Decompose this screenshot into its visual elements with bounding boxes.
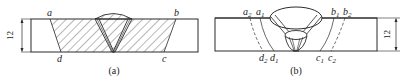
- label-d1: d1: [270, 52, 279, 65]
- label-b: b: [174, 7, 179, 18]
- label-d: d: [57, 53, 63, 64]
- label-a: a: [47, 7, 52, 18]
- label-c: c: [162, 53, 167, 64]
- label-b2: b2: [343, 6, 352, 19]
- label-c2: c2: [328, 52, 336, 65]
- caption-b: (b): [290, 65, 302, 77]
- boundary-a1-d1: [260, 18, 274, 51]
- weld-diagram: 12 a b d c (a): [0, 0, 408, 81]
- caption-a: (a): [108, 65, 119, 77]
- panel-b: 12 a2 a1 b1 b2 d2 d1 c1 c2 (b): [215, 6, 400, 77]
- label-a2: a2: [243, 6, 252, 19]
- dimension-label-a: 12: [5, 31, 15, 40]
- label-a1: a1: [256, 6, 265, 19]
- dimension-label-b: 12: [382, 30, 392, 39]
- label-c1: c1: [316, 52, 324, 65]
- boundary-b1-c1: [320, 18, 334, 51]
- hatched-zone: [50, 19, 176, 52]
- label-d2: d2: [259, 52, 268, 65]
- label-b1: b1: [331, 6, 340, 19]
- weld-cap: [95, 14, 132, 20]
- weld-pass-lower: [285, 31, 307, 40]
- panel-a: 12 a b d c (a): [5, 7, 198, 77]
